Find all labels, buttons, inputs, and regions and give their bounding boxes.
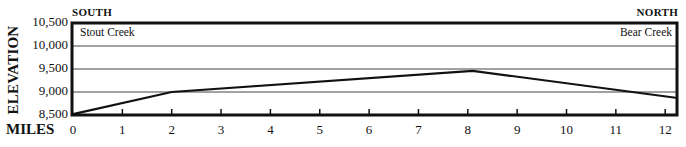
x-tick-label: 11	[610, 122, 623, 138]
x-tick-label: 12	[659, 122, 672, 138]
x-axis-title: MILES	[6, 121, 54, 138]
end-place-label: Bear Creek	[620, 26, 672, 38]
x-tick-label: 10	[560, 122, 573, 138]
x-tick-label: 7	[415, 122, 422, 138]
start-place-label: Stout Creek	[80, 26, 135, 38]
x-tick-label: 1	[119, 122, 126, 138]
x-tick-label: 8	[465, 122, 472, 138]
x-tick-label: 9	[514, 122, 521, 138]
x-tick-label: 2	[168, 122, 175, 138]
x-tick-label: 0	[70, 122, 77, 138]
plot-area	[0, 0, 686, 147]
x-tick-label: 6	[366, 122, 373, 138]
elevation-profile-chart: SOUTH NORTH ELEVATION 8,5009,0009,50010,…	[0, 0, 686, 147]
x-tick-label: 3	[218, 122, 225, 138]
x-tick-label: 4	[267, 122, 274, 138]
x-tick-label: 5	[317, 122, 324, 138]
